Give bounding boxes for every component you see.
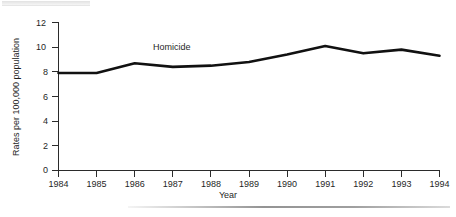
y-tick-label-6: 6 [26, 92, 48, 102]
x-axis-ticks [59, 171, 440, 178]
x-tick-label-1984: 1984 [39, 179, 79, 189]
x-axis-title: Year [0, 190, 456, 200]
x-tick-label-1991: 1991 [305, 179, 345, 189]
y-tick-label-12: 12 [24, 18, 46, 28]
x-tick-label-1985: 1985 [77, 179, 117, 189]
x-tick-label-1986: 1986 [115, 179, 155, 189]
chart-figure: 0 2 4 6 8 10 12 1984 1985 1986 1987 1988… [0, 0, 456, 217]
y-tick-label-8: 8 [26, 67, 48, 77]
x-tick-label-1990: 1990 [267, 179, 307, 189]
series-line-homicide [59, 46, 440, 73]
x-tick-label-1992: 1992 [343, 179, 383, 189]
series-annotation-homicide: Homicide [153, 42, 191, 52]
x-tick-label-1988: 1988 [191, 179, 231, 189]
y-tick-label-4: 4 [26, 116, 48, 126]
y-tick-label-0: 0 [26, 165, 48, 175]
page-rule-bottom [128, 206, 450, 208]
y-tick-label-2: 2 [26, 141, 48, 151]
y-axis-title: Rates per 100,000 population [11, 17, 21, 177]
y-axis-ticks [52, 23, 59, 171]
x-tick-label-1989: 1989 [229, 179, 269, 189]
y-tick-label-10: 10 [24, 42, 46, 52]
x-tick-label-1994: 1994 [420, 179, 456, 189]
x-tick-label-1987: 1987 [153, 179, 193, 189]
x-tick-label-1993: 1993 [381, 179, 421, 189]
